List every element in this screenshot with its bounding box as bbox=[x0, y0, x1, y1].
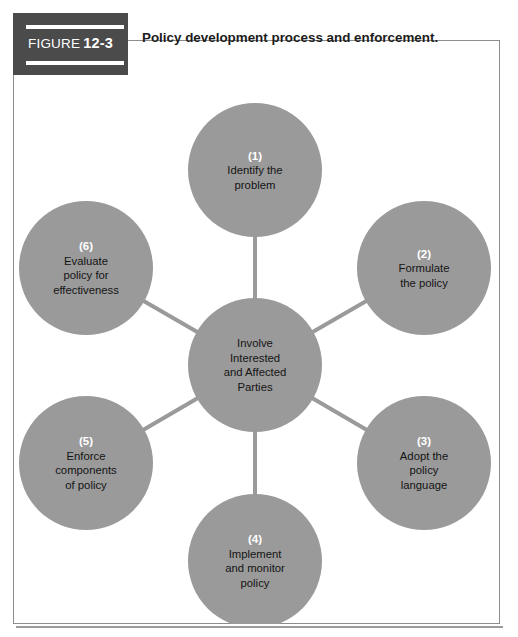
connector-hub-to-step-3 bbox=[310, 397, 368, 431]
process-node-4-line-1: Implement bbox=[229, 548, 283, 560]
process-node-6-line-2: policy for bbox=[63, 269, 108, 281]
process-node-5-line-1: Enforce bbox=[67, 450, 106, 462]
process-node-3-number: (3) bbox=[417, 435, 431, 447]
process-node-6-number: (6) bbox=[79, 240, 93, 252]
figure-banner-label: FIGURE12-3 bbox=[13, 35, 128, 51]
hub-node-line-1: Interested bbox=[230, 352, 280, 364]
process-node-1-line-1: Identify the bbox=[227, 164, 282, 176]
connector-hub-to-step-5 bbox=[141, 397, 199, 431]
hub-node-shape bbox=[188, 298, 322, 432]
process-node-6[interactable]: (6)Evaluatepolicy foreffectiveness bbox=[19, 201, 153, 335]
hub-node-line-3: Parties bbox=[237, 381, 273, 393]
figure-banner: FIGURE12-3 bbox=[13, 13, 128, 75]
hub-node-line-2: and Affected bbox=[224, 366, 287, 378]
process-node-2-number: (2) bbox=[417, 248, 431, 260]
process-node-5-line-3: of policy bbox=[65, 479, 107, 491]
process-node-4-line-2: and monitor bbox=[225, 562, 285, 574]
process-node-6-shape bbox=[19, 201, 153, 335]
figure-title: Policy development process and enforceme… bbox=[142, 30, 492, 46]
policy-process-diagram: InvolveInterestedand AffectedParties(1)I… bbox=[13, 40, 500, 624]
process-node-3-line-2: policy bbox=[410, 464, 439, 476]
figure-container: FIGURE12-3 Policy development process an… bbox=[0, 0, 518, 637]
banner-stripe-bottom bbox=[26, 61, 124, 65]
process-node-3-line-1: Adopt the bbox=[400, 450, 448, 462]
process-node-3-shape bbox=[357, 396, 491, 530]
process-node-5-shape bbox=[19, 396, 153, 530]
process-node-5-number: (5) bbox=[79, 435, 93, 447]
process-node-5[interactable]: (5)Enforcecomponentsof policy bbox=[19, 396, 153, 530]
process-node-4-line-3: policy bbox=[241, 577, 270, 589]
hub-node-line-0: Involve bbox=[237, 337, 273, 349]
figure-banner-number: 12-3 bbox=[83, 35, 113, 51]
connector-hub-to-step-2 bbox=[311, 300, 369, 333]
figure-banner-word: FIGURE bbox=[28, 36, 80, 51]
process-node-6-line-1: Evaluate bbox=[64, 255, 108, 267]
process-node-1-line-2: problem bbox=[235, 179, 276, 191]
node-layer: InvolveInterestedand AffectedParties(1)I… bbox=[19, 103, 491, 624]
hub-node[interactable]: InvolveInterestedand AffectedParties bbox=[188, 298, 322, 432]
process-node-4[interactable]: (4)Implementand monitorpolicy bbox=[188, 494, 322, 624]
process-node-5-line-2: components bbox=[55, 464, 117, 476]
process-node-6-line-3: effectiveness bbox=[53, 284, 119, 296]
banner-stripe-top bbox=[26, 25, 124, 29]
process-node-3[interactable]: (3)Adopt thepolicylanguage bbox=[357, 396, 491, 530]
process-node-4-number: (4) bbox=[248, 533, 262, 545]
process-node-1[interactable]: (1)Identify theproblem bbox=[188, 103, 322, 237]
connector-hub-to-step-6 bbox=[142, 300, 200, 333]
figure-frame-shadow bbox=[16, 626, 503, 628]
process-node-3-line-3: language bbox=[401, 479, 448, 491]
process-node-2[interactable]: (2)Formulatethe policy bbox=[357, 201, 491, 335]
process-node-1-number: (1) bbox=[248, 150, 262, 162]
process-node-2-line-2: the policy bbox=[400, 277, 448, 289]
process-node-2-line-1: Formulate bbox=[399, 262, 450, 274]
